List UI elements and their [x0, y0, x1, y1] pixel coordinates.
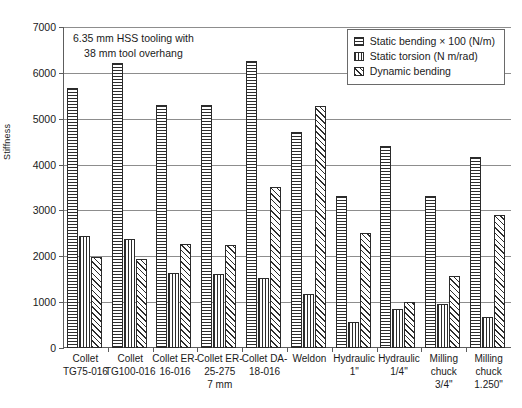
bar-group	[197, 27, 242, 348]
bar	[470, 157, 481, 348]
y-tick-label: 5000	[33, 113, 56, 124]
legend-label: Dynamic bending	[370, 66, 451, 77]
bar	[336, 196, 347, 348]
legend-item[interactable]: Dynamic bending	[354, 64, 495, 79]
x-axis-label: ColletTG75-016	[60, 352, 111, 378]
annotation-line: 38 mm tool overhang	[73, 46, 194, 61]
x-axis-label-line: Collet	[105, 352, 156, 365]
x-axis-label-line: Collet DA-	[239, 352, 290, 365]
bar-group	[108, 27, 153, 348]
bar	[136, 259, 147, 348]
bar	[168, 273, 179, 348]
x-axis-label-line: 1"	[329, 365, 380, 378]
x-axis-label: Weldon	[284, 352, 335, 365]
x-axis-label-line: Collet ER-	[194, 352, 245, 365]
bar	[291, 132, 302, 348]
chart-annotation: 6.35 mm HSS tooling with38 mm tool overh…	[73, 31, 194, 61]
legend-item[interactable]: Static torsion (N m/rad)	[354, 49, 495, 64]
plot-area: 01000200030004000500060007000 6.35 mm HS…	[63, 27, 511, 348]
y-axis-title: Stiffness	[2, 146, 12, 160]
x-axis-label-line: TG100-016	[105, 365, 156, 378]
x-axis-label: ColletTG100-016	[105, 352, 156, 378]
x-axis-label-line: 25-275	[194, 365, 245, 378]
bar	[425, 196, 436, 348]
bar	[303, 294, 314, 348]
y-tick-label: 4000	[33, 159, 56, 170]
bar	[482, 317, 493, 348]
bar	[315, 106, 326, 348]
y-tick-label: 3000	[33, 205, 56, 216]
bar	[380, 146, 391, 348]
bar	[180, 244, 191, 348]
x-axis-label-line: 1/4"	[374, 365, 425, 378]
bar	[213, 274, 224, 348]
bar	[112, 63, 123, 348]
bar	[449, 276, 460, 348]
chart-legend: Static bending × 100 (N/m)Static torsion…	[347, 29, 505, 85]
bar-group	[153, 27, 198, 348]
x-axis-label-line: Weldon	[284, 352, 335, 365]
y-tick-mark	[59, 348, 64, 349]
x-axis-label-line: TG75-016	[60, 365, 111, 378]
y-tick-label: 0	[50, 343, 56, 354]
bar-group	[63, 27, 108, 348]
bar	[494, 215, 505, 348]
x-axis-label-line: Milling	[418, 352, 469, 365]
x-axis-label: Collet ER-16-016	[150, 352, 201, 378]
bar	[348, 322, 359, 348]
bar	[437, 304, 448, 348]
x-axis-label-line: 1.250"	[463, 378, 514, 391]
legend-swatch-icon	[354, 37, 364, 46]
bar-group	[287, 27, 332, 348]
bar	[360, 233, 371, 348]
y-tick-label: 2000	[33, 251, 56, 262]
x-axis-label: Millingchuck3/4"	[418, 352, 469, 391]
x-axis-label-line: 3/4"	[418, 378, 469, 391]
legend-swatch-icon	[354, 52, 364, 61]
x-axis-label: Collet ER-25-2757 mm	[194, 352, 245, 391]
bar	[404, 302, 415, 348]
x-axis-label: Collet DA-18-016	[239, 352, 290, 378]
bar	[124, 239, 135, 348]
x-axis-labels: ColletTG75-016ColletTG100-016Collet ER-1…	[63, 352, 511, 406]
x-axis-label-line: 7 mm	[194, 378, 245, 391]
bar	[392, 309, 403, 348]
bar	[156, 105, 167, 349]
bar	[225, 245, 236, 348]
x-axis-label: Hydraulic1"	[329, 352, 380, 378]
annotation-line: 6.35 mm HSS tooling with	[73, 31, 194, 46]
x-axis-label-line: 16-016	[150, 365, 201, 378]
y-tick-label: 1000	[33, 297, 56, 308]
bar	[270, 187, 281, 348]
x-axis-label-line: Collet ER-	[150, 352, 201, 365]
y-tick-label: 7000	[33, 22, 56, 33]
bar	[79, 236, 90, 348]
bar	[258, 278, 269, 348]
x-axis-label: Millingchuck1.250"	[463, 352, 514, 391]
x-axis-label-line: Milling	[463, 352, 514, 365]
x-axis-label-line: Hydraulic	[374, 352, 425, 365]
bar	[67, 88, 78, 348]
legend-label: Static bending × 100 (N/m)	[370, 36, 495, 47]
legend-label: Static torsion (N m/rad)	[370, 51, 478, 62]
x-axis-label-line: chuck	[463, 365, 514, 378]
legend-item[interactable]: Static bending × 100 (N/m)	[354, 34, 495, 49]
x-axis-label: Hydraulic1/4"	[374, 352, 425, 378]
x-axis-label-line: chuck	[418, 365, 469, 378]
y-tick-label: 6000	[33, 68, 56, 79]
x-axis-label-line: 18-016	[239, 365, 290, 378]
stiffness-bar-chart: Stiffness 01000200030004000500060007000 …	[0, 0, 522, 408]
x-axis-label-line: Collet	[60, 352, 111, 365]
bar	[246, 61, 257, 348]
bar	[91, 257, 102, 348]
bar-group	[242, 27, 287, 348]
bar	[201, 105, 212, 349]
legend-swatch-icon	[354, 67, 364, 76]
x-axis-label-line: Hydraulic	[329, 352, 380, 365]
